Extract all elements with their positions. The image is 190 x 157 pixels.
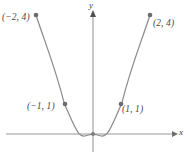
y-axis-arrowhead: [90, 10, 96, 17]
point-marker-neg2-4: [34, 13, 39, 18]
point-marker-origin: [91, 132, 95, 136]
x-axis-arrowhead: [172, 131, 178, 137]
parabola-figure: (−2, 4) (−1, 1) (1, 1) (2, 4) y x: [0, 0, 190, 157]
x-axis-label: x: [179, 128, 183, 137]
point-label-pos1-1: (1, 1): [122, 105, 143, 115]
point-marker-neg1-1: [63, 102, 68, 107]
point-label-neg2-4: (−2, 4): [2, 13, 30, 23]
point-label-neg1-1: (−1, 1): [27, 102, 55, 112]
point-label-pos2-4: (2, 4): [153, 19, 174, 29]
y-axis-label: y: [89, 1, 93, 10]
point-marker-pos2-4: [148, 13, 153, 18]
